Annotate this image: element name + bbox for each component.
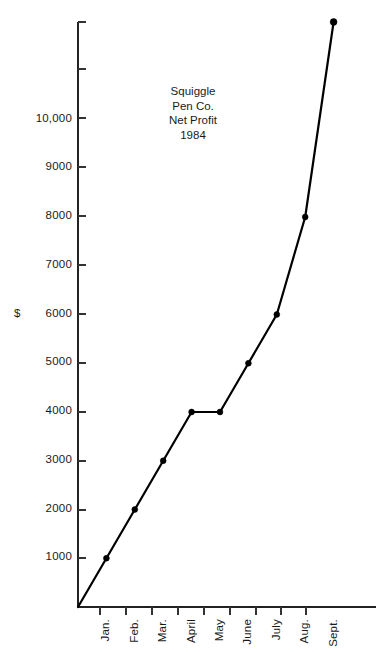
x-axis-tick-label: Sept. [327,619,341,652]
x-axis-ticks [100,607,306,615]
x-axis-tick-label: Aug. [298,619,312,652]
y-axis-tick-label: 9000 [12,161,72,175]
data-point-marker [246,360,252,366]
y-axis-tick-label: 1000 [12,551,72,565]
y-axis-tick-label-text: 4000 [46,405,72,417]
y-axis-tick-label: 8000 [12,210,72,224]
x-axis-tick-label: Mar. [156,619,170,652]
data-point-marker [189,409,195,415]
y-axis-unit-label: $ [14,308,20,320]
x-axis-tick-label-text: June [243,619,255,645]
data-point-marker [274,312,280,318]
data-point-marker [302,214,308,220]
data-point-marker [160,458,166,464]
net-profit-line-chart: 10,0009000800070006000500040003000200010… [0,0,386,652]
y-axis-tick-label-text: 3000 [46,454,72,466]
x-axis-tick-label: April [185,619,199,652]
y-axis-tick-label-text: 10,000 [36,113,72,125]
chart-title-line-1: Squiggle [131,84,255,99]
y-axis-tick-label-text: 2000 [46,503,72,515]
y-axis-tick-label-text: 7000 [46,259,72,271]
y-axis-tick-label: 7000 [12,259,72,273]
y-axis-tick-label: 10,000 [12,113,72,127]
x-axis-tick-label-text: May [214,619,226,641]
y-axis-tick-label-text: 6000 [46,308,72,320]
y-axis-tick-label-text: 1000 [46,551,72,563]
chart-title-line-4: 1984 [131,128,255,143]
chart-title: Squiggle Pen Co. Net Profit 1984 [131,84,255,142]
x-axis-tick-label: May [213,619,227,652]
data-point-marker [132,507,138,513]
y-axis-tick-label: 5000 [12,356,72,370]
x-axis-tick-label: June [241,619,255,652]
x-axis-tick-label-text: Jan. [101,619,113,642]
x-axis-tick-label-text: Sept. [328,619,340,647]
y-axis-tick-label: 4000 [12,405,72,419]
data-point-marker [104,555,110,561]
data-point-marker [330,19,337,26]
y-axis-tick-label-text: 5000 [46,356,72,368]
x-axis-tick-label: Jan. [99,619,113,652]
y-axis-tick-label: 2000 [12,503,72,517]
data-point-marker [217,409,223,415]
y-axis-tick-label-text: 9000 [46,161,72,173]
y-axis-tick-label: 6000 [12,308,72,322]
y-axis-ticks [78,22,86,558]
x-axis-tick-label-text: Mar. [157,619,169,642]
x-axis-tick-label: July [270,619,284,652]
chart-title-line-2: Pen Co. [131,99,255,114]
chart-title-line-3: Net Profit [131,113,255,128]
x-axis-tick-label-text: Feb. [129,619,141,643]
x-axis-tick-label: Feb. [128,619,142,652]
x-axis-tick-label-text: Aug. [299,619,311,643]
x-axis-tick-label-text: July [271,619,283,640]
y-axis-tick-label-text: 8000 [46,210,72,222]
y-axis-tick-label: 3000 [12,454,72,468]
x-axis-tick-label-text: April [186,619,198,643]
